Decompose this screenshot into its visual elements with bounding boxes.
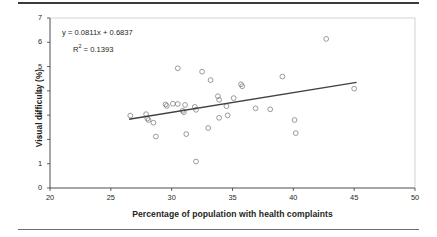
data-point-marker xyxy=(280,74,285,79)
data-point-marker xyxy=(224,104,229,109)
data-point-marker xyxy=(292,118,297,123)
data-point-marker xyxy=(253,106,258,111)
data-point-marker xyxy=(183,103,188,108)
data-point-marker xyxy=(164,104,169,109)
data-point-marker xyxy=(200,69,205,74)
data-point-marker xyxy=(324,36,329,41)
data-point-marker xyxy=(184,132,189,137)
data-point-marker xyxy=(175,66,180,71)
scatter-chart: Visual difficulty (%) Percentage of popu… xyxy=(0,0,437,237)
x-tick-label: 35 xyxy=(221,193,245,202)
y-tick-label: 2 xyxy=(26,134,42,143)
y-tick-label: 5 xyxy=(26,62,42,71)
x-tick-label: 40 xyxy=(281,193,305,202)
data-point-marker xyxy=(194,159,199,164)
y-tick-label: 4 xyxy=(26,86,42,95)
x-tick-label: 20 xyxy=(38,193,62,202)
data-point-marker xyxy=(231,96,236,101)
data-point-marker xyxy=(146,118,151,123)
trend-line xyxy=(129,82,357,119)
figure-container: Visual difficulty (%) Percentage of popu… xyxy=(0,0,437,237)
y-tick-label: 6 xyxy=(26,37,42,46)
x-tick-marks xyxy=(50,188,415,191)
y-tick-label: 3 xyxy=(26,110,42,119)
x-tick-label: 25 xyxy=(99,193,123,202)
data-point-marker xyxy=(175,102,180,107)
y-tick-label: 7 xyxy=(26,13,42,22)
data-point-marker xyxy=(208,78,213,83)
x-tick-label: 30 xyxy=(160,193,184,202)
data-point-marker xyxy=(352,86,357,91)
y-tick-label: 1 xyxy=(26,159,42,168)
y-tick-marks xyxy=(47,18,50,188)
data-point-marker xyxy=(151,120,156,125)
data-point-marker xyxy=(163,102,168,107)
x-tick-label: 45 xyxy=(342,193,366,202)
data-point-marker xyxy=(128,113,133,118)
data-point-marker xyxy=(217,115,222,120)
data-point-marker xyxy=(268,107,273,112)
data-point-marker xyxy=(170,101,175,106)
x-tick-label: 50 xyxy=(403,193,427,202)
plot-canvas xyxy=(0,0,437,237)
data-point-marker xyxy=(206,126,211,131)
data-point-marker xyxy=(225,113,230,118)
data-point-marker xyxy=(153,134,158,139)
regression-trend-line xyxy=(129,82,357,119)
y-tick-label: 0 xyxy=(26,183,42,192)
data-point-marker xyxy=(293,131,298,136)
